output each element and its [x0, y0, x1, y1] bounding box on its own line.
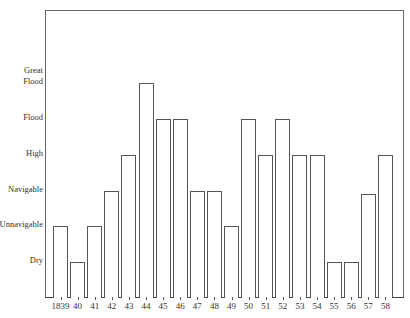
x-tick — [146, 297, 147, 300]
y-tick-label: Dry — [30, 255, 43, 266]
bar-45 — [156, 119, 171, 298]
x-tick — [385, 297, 386, 300]
bar-53 — [292, 155, 307, 298]
x-tick — [61, 297, 62, 300]
bar-51 — [258, 155, 273, 298]
y-tick-label: Flood — [23, 112, 43, 123]
bar-46 — [173, 119, 188, 298]
x-tick — [163, 297, 164, 300]
x-tick — [129, 297, 130, 300]
x-tick — [317, 297, 318, 300]
bar-41 — [87, 226, 102, 298]
bar-52 — [275, 119, 290, 298]
x-tick — [214, 297, 215, 300]
y-tick-label: Unnavigable — [0, 219, 43, 230]
x-tick — [78, 297, 79, 300]
bar-44 — [139, 83, 154, 298]
bar-50 — [241, 119, 256, 298]
x-tick-label: 58 — [375, 301, 395, 311]
y-tick-label: Great Flood — [23, 65, 43, 87]
x-tick — [95, 297, 96, 300]
x-tick — [283, 297, 284, 300]
bar-56 — [344, 262, 359, 298]
x-tick — [266, 297, 267, 300]
x-tick — [300, 297, 301, 300]
x-tick — [351, 297, 352, 300]
bar-48 — [207, 191, 222, 298]
x-tick — [180, 297, 181, 300]
bar-57 — [361, 194, 376, 298]
bar-54 — [310, 155, 325, 298]
bar-58 — [378, 155, 393, 298]
y-tick-label: Navigable — [8, 184, 43, 195]
bar-43 — [121, 155, 136, 298]
x-tick — [249, 297, 250, 300]
bar-42 — [104, 191, 119, 298]
x-tick — [197, 297, 198, 300]
x-tick — [368, 297, 369, 300]
bar-40 — [70, 262, 85, 298]
bar-49 — [224, 226, 239, 298]
x-tick — [112, 297, 113, 300]
bar-55 — [327, 262, 342, 298]
x-tick — [232, 297, 233, 300]
x-tick — [334, 297, 335, 300]
bar-1839 — [53, 226, 68, 298]
bar-47 — [190, 191, 205, 298]
y-tick-label: High — [26, 148, 43, 159]
